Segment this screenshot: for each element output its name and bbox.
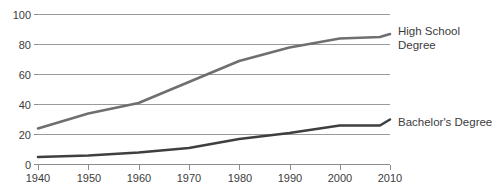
chart-canvas: 100 80 60 40 20 0 1940 1950 1960 1970 19… bbox=[0, 0, 492, 190]
y-axis-label-0: 0 bbox=[25, 159, 31, 171]
x-axis-label-2010: 2010 bbox=[378, 172, 402, 184]
series-label-high-school-line1: High School bbox=[398, 25, 460, 37]
x-axis-labels-group: 1940 1950 1960 1970 1980 1990 2000 2010 bbox=[26, 172, 402, 184]
series-line-high-school-degree bbox=[38, 34, 390, 129]
series-group bbox=[38, 34, 390, 157]
y-axis-ticks-group bbox=[34, 15, 38, 165]
series-label-high-school-line2: Degree bbox=[398, 39, 436, 51]
series-labels-group: High School Degree Bachelor's Degree bbox=[398, 25, 492, 128]
series-label-bachelors: Bachelor's Degree bbox=[398, 116, 492, 128]
y-axis-label-20: 20 bbox=[19, 129, 31, 141]
x-axis-label-1940: 1940 bbox=[26, 172, 50, 184]
y-axis-label-80: 80 bbox=[19, 39, 31, 51]
x-axis-label-2000: 2000 bbox=[328, 172, 352, 184]
y-axis-label-40: 40 bbox=[19, 99, 31, 111]
y-axis-label-100: 100 bbox=[13, 9, 31, 21]
x-axis-label-1980: 1980 bbox=[228, 172, 252, 184]
y-axis-labels-group: 100 80 60 40 20 0 bbox=[13, 9, 31, 171]
x-axis-ticks-group bbox=[39, 165, 391, 170]
gridlines-group bbox=[38, 15, 390, 135]
series-line-bachelors-degree bbox=[38, 120, 390, 158]
x-axis-label-1960: 1960 bbox=[127, 172, 151, 184]
y-axis-label-60: 60 bbox=[19, 69, 31, 81]
line-chart: 100 80 60 40 20 0 1940 1950 1960 1970 19… bbox=[0, 0, 492, 190]
x-axis-label-1970: 1970 bbox=[177, 172, 201, 184]
x-axis-label-1990: 1990 bbox=[278, 172, 302, 184]
x-axis-label-1950: 1950 bbox=[77, 172, 101, 184]
